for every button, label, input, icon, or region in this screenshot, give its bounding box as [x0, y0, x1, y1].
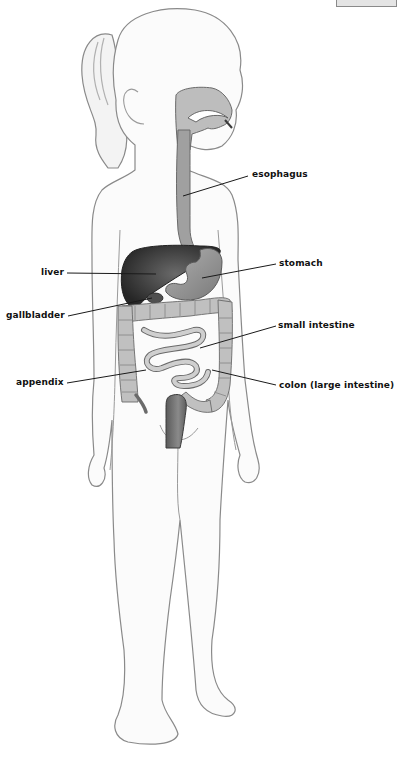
label-colon: colon (large intestine) [279, 380, 394, 391]
label-appendix: appendix [16, 377, 64, 388]
label-esophagus: esophagus [252, 169, 308, 180]
label-stomach: stomach [279, 258, 323, 269]
gallbladder [147, 293, 163, 303]
label-small-intestine: small intestine [278, 320, 355, 331]
label-liver: liver [41, 267, 64, 278]
digestive-system-diagram: esophagus liver stomach gallbladder smal… [0, 0, 397, 757]
corner-tab [336, 0, 397, 7]
label-gallbladder: gallbladder [6, 310, 65, 321]
